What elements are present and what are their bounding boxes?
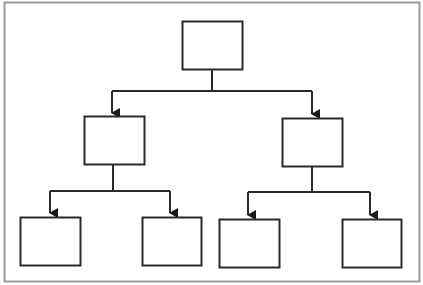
node-leaf-4	[343, 220, 402, 268]
node-leaf-3	[220, 220, 280, 268]
nodes	[21, 22, 402, 268]
node-mid-left	[85, 117, 145, 165]
tree-diagram	[0, 0, 423, 285]
node-root	[183, 22, 243, 70]
node-mid-right	[283, 119, 343, 167]
node-leaf-1	[21, 218, 81, 266]
node-leaf-2	[143, 218, 202, 266]
